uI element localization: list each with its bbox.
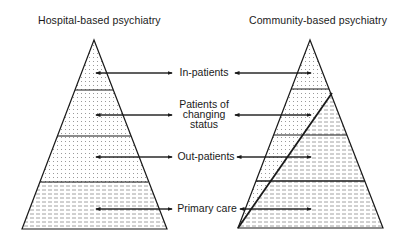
label-out-patients: Out-patients [175, 151, 237, 161]
label-primary-care-text: Primary care [177, 202, 237, 214]
label-out-patients-text: Out-patients [177, 150, 234, 162]
label-changing-status-line-3: status [175, 119, 233, 129]
label-in-patients-text: In-patients [179, 66, 228, 78]
left-pyramid [0, 40, 200, 232]
right-pyramid [238, 40, 400, 232]
label-primary-care: Primary care [175, 203, 239, 213]
label-changing-status: Patients of changing status [175, 99, 233, 129]
label-in-patients: In-patients [175, 67, 233, 77]
